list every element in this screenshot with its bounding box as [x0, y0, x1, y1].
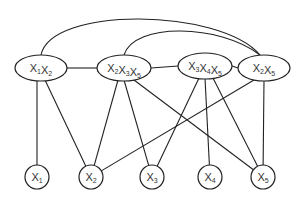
- edge-c1-v2: [45, 80, 86, 166]
- variable-node-x1: X1: [25, 165, 49, 189]
- cluster-arcs: [41, 19, 260, 55]
- arc-edge-c1-c4: [41, 19, 260, 55]
- arc-edge-c2-c4: [124, 31, 260, 55]
- edge-c2-v2: [94, 80, 118, 165]
- edge-c3-v3: [157, 78, 199, 166]
- edge-c4-v2: [101, 80, 254, 171]
- graph-nodes: X1X2X2X3X5X3X4X5X2X5X1X2X3X4X5: [15, 53, 290, 189]
- junction-graph-diagram: X1X2X2X3X5X3X4X5X2X5X1X2X3X4X5: [0, 0, 304, 203]
- variable-node-x4: X4: [198, 165, 222, 189]
- edge-c3-c4: [232, 66, 238, 68]
- edge-c2-c3: [151, 66, 178, 68]
- edge-c2-v5: [134, 80, 253, 170]
- graph-edges: [37, 66, 264, 171]
- cluster-node-12: X1X2: [15, 55, 67, 81]
- variable-node-x3: X3: [140, 165, 164, 189]
- edge-c3-v4: [205, 78, 209, 165]
- cluster-node-25: X2X5: [238, 55, 290, 81]
- cluster-node-235: X2X3X5: [97, 55, 151, 81]
- edge-c4-v5: [263, 80, 264, 165]
- variable-node-x5: X5: [251, 165, 275, 189]
- variable-node-x2: X2: [79, 165, 103, 189]
- cluster-node-345: X3X4X5: [178, 53, 232, 79]
- edge-c2-v3: [124, 80, 149, 165]
